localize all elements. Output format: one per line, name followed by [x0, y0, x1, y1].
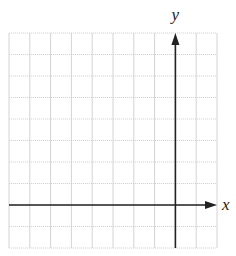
x-axis-arrowhead-icon — [205, 201, 217, 209]
coordinate-plane: x y — [0, 0, 236, 256]
x-axis-label: x — [221, 195, 230, 214]
y-axis-arrowhead-icon — [171, 33, 179, 45]
y-axis-label: y — [169, 5, 179, 24]
axes: x y — [9, 5, 230, 248]
grid-lines — [9, 33, 217, 248]
